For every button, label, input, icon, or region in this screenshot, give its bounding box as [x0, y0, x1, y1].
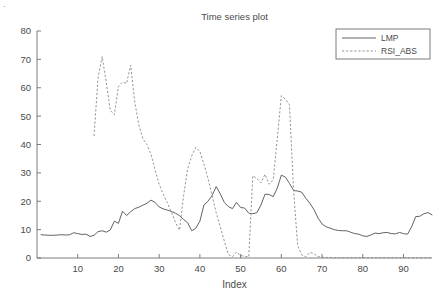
x-tick-label-80: 80 [357, 263, 368, 274]
figure-canvas: · Time series plot0102030405060708010203… [0, 0, 445, 297]
x-tick-label-30: 30 [154, 263, 165, 274]
x-tick-label-20: 20 [113, 263, 124, 274]
y-tick-label-70: 70 [20, 54, 31, 65]
y-tick-label-50: 50 [20, 111, 31, 122]
x-tick-label-70: 70 [317, 263, 328, 274]
x-tick-label-60: 60 [276, 263, 287, 274]
x-tick-label-10: 10 [72, 263, 83, 274]
y-tick-label-40: 40 [20, 139, 31, 150]
x-tick-label-50: 50 [235, 263, 246, 274]
time-series-chart: Time series plot010203040506070801020304… [0, 0, 445, 297]
y-tick-label-60: 60 [20, 82, 31, 93]
y-tick-label-10: 10 [20, 224, 31, 235]
series-line-lmp [41, 175, 432, 236]
legend-label-lmp: LMP [381, 33, 399, 43]
x-tick-label-40: 40 [195, 263, 206, 274]
y-tick-label-80: 80 [20, 25, 31, 36]
series-line-rsi_abs [94, 57, 432, 258]
x-tick-label-90: 90 [398, 263, 409, 274]
plot-axes [37, 31, 432, 258]
legend-label-rsi_abs: RSI_ABS [381, 46, 417, 56]
y-tick-label-30: 30 [20, 167, 31, 178]
y-tick-label-0: 0 [26, 252, 31, 263]
x-axis-label: Index [222, 279, 246, 290]
y-tick-label-20: 20 [20, 196, 31, 207]
chart-title: Time series plot [201, 11, 268, 22]
